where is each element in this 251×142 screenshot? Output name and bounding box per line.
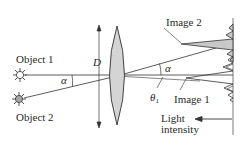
alpha-left-label: α	[61, 74, 67, 86]
image1-label: Image 1	[174, 93, 210, 105]
object1-label: Object 1	[16, 53, 54, 65]
aperture-d-arrow	[97, 25, 101, 128]
object2-ray	[24, 76, 117, 98]
alpha-right-label: α	[165, 62, 171, 74]
light-intensity-arrow	[195, 117, 232, 122]
aperture-d-label: D	[92, 56, 101, 68]
theta-subscript: 1	[155, 97, 159, 105]
object2-label: Object 2	[16, 111, 54, 123]
image2-intensity-peak	[181, 24, 233, 62]
diffraction-resolution-diagram: Object 1 Object 2 α α D Image 2 Image 1 …	[0, 0, 251, 142]
object2-sun-icon	[12, 92, 26, 106]
converging-lens	[110, 26, 125, 125]
light-intensity-label-line2: intensity	[161, 123, 199, 135]
image2-leader	[164, 28, 181, 43]
image1-leader	[180, 79, 186, 90]
image2-label: Image 2	[166, 16, 202, 28]
alpha-right-arc	[160, 64, 162, 76]
alpha-left-arc	[72, 75, 73, 86]
theta1-label: θ1	[150, 91, 159, 105]
object1-sun-icon	[13, 68, 27, 82]
